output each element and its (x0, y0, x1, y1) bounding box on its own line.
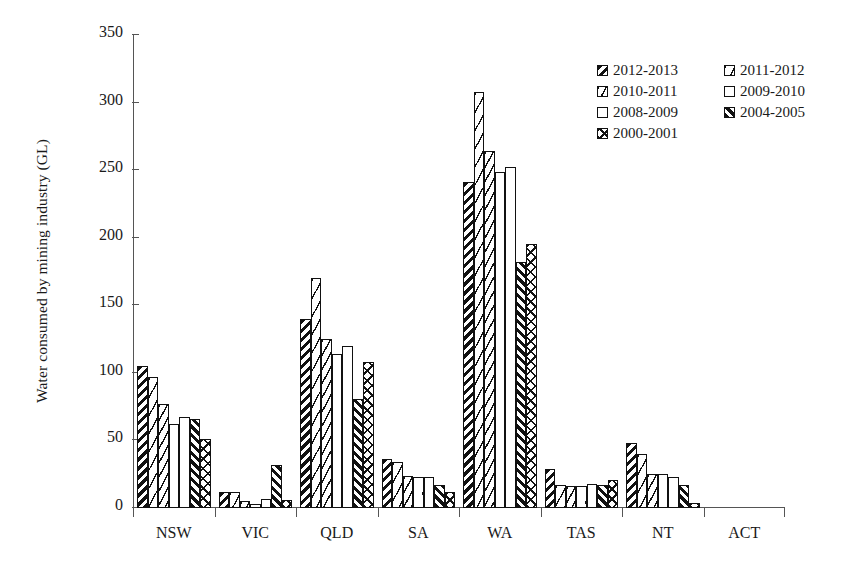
legend-item: 2008-2009 (597, 104, 710, 121)
bar (148, 377, 159, 508)
x-axis-tick-cell (704, 508, 786, 522)
x-axis-tick (622, 508, 623, 517)
bar (597, 485, 608, 508)
bar (158, 404, 169, 508)
legend-swatch-icon (724, 107, 735, 118)
bar (321, 339, 332, 508)
x-axis-tick (133, 508, 134, 517)
legend-item: 2010-2011 (597, 83, 710, 100)
legend-label: 2008-2009 (613, 104, 678, 121)
bar (200, 439, 211, 508)
x-axis-labels: NSWVICQLDSAWATASNTACT (133, 524, 785, 542)
x-axis-tick-cell (215, 508, 297, 522)
x-axis-label-act: ACT (704, 524, 786, 542)
legend-swatch-icon (724, 86, 735, 97)
x-axis-tick-cell (541, 508, 623, 522)
x-axis-tick (296, 508, 297, 517)
y-axis-tick-label: 300 (99, 91, 123, 109)
x-axis-label-qld: QLD (296, 524, 378, 542)
x-axis-tick (378, 508, 379, 517)
x-axis-label-wa: WA (459, 524, 541, 542)
bar-group-bars (300, 35, 374, 508)
bar (413, 477, 424, 508)
bar (392, 462, 403, 508)
bar (555, 485, 566, 508)
legend-swatch-icon (597, 86, 608, 97)
bar (474, 92, 485, 508)
legend-swatch-icon (724, 65, 735, 76)
legend-label: 2000-2001 (613, 125, 678, 142)
bar (190, 419, 201, 508)
legend-item: 2004-2005 (724, 104, 837, 121)
y-axis-tick-label: 100 (99, 361, 123, 379)
y-axis-tick-label: 200 (99, 226, 123, 244)
x-axis-tick-cell (296, 508, 378, 522)
x-axis-label-tas: TAS (541, 524, 623, 542)
x-axis-tick (459, 508, 460, 517)
x-axis-tick-cell (459, 508, 541, 522)
bar (353, 399, 364, 508)
bar-group (296, 35, 378, 508)
bar (495, 172, 506, 509)
bar (637, 454, 648, 508)
y-axis-tick-label: 150 (99, 293, 123, 311)
bar (271, 465, 282, 508)
y-axis-tick-label: 250 (99, 158, 123, 176)
bar (484, 151, 495, 508)
bar (526, 244, 537, 508)
bar (505, 167, 516, 508)
legend-label: 2009-2010 (740, 83, 805, 100)
bar (382, 459, 393, 508)
legend-swatch-icon (597, 65, 608, 76)
x-axis-tick-cell (622, 508, 704, 522)
bar (679, 485, 690, 508)
bar (587, 484, 598, 508)
x-axis-ticks (133, 508, 785, 522)
bar (363, 362, 374, 508)
bar (576, 486, 587, 508)
bar (608, 480, 619, 508)
legend-swatch-icon (597, 128, 608, 139)
bar (424, 477, 435, 508)
x-axis-tick (784, 508, 785, 517)
legend-label: 2011-2012 (740, 62, 804, 79)
bar (516, 262, 527, 508)
bar (179, 417, 190, 508)
legend-swatch-icon (597, 107, 608, 118)
x-axis-tick-cell (133, 508, 215, 522)
x-axis-label-nt: NT (622, 524, 704, 542)
bar-group-bars (137, 35, 211, 508)
bar-group (378, 35, 460, 508)
bar-group (133, 35, 215, 508)
x-axis-label-nsw: NSW (133, 524, 215, 542)
bar (300, 319, 311, 508)
bar (668, 477, 679, 508)
bar (219, 492, 230, 508)
bar (463, 182, 474, 508)
bar-group (215, 35, 297, 508)
bar-group (459, 35, 541, 508)
y-axis-tick-label: 50 (107, 428, 123, 446)
bar (229, 492, 240, 508)
legend-item: 2000-2001 (597, 125, 710, 142)
x-axis-tick (215, 508, 216, 517)
bar (626, 443, 637, 508)
y-axis-tick-label: 0 (115, 496, 123, 514)
x-axis-tick (541, 508, 542, 517)
bar (261, 499, 272, 508)
bar (240, 501, 251, 508)
x-axis-label-vic: VIC (215, 524, 297, 542)
bar (403, 476, 414, 508)
legend-label: 2004-2005 (740, 104, 805, 121)
legend-item: 2012-2013 (597, 62, 710, 79)
bar (445, 492, 456, 508)
bar-group-bars (219, 35, 293, 508)
bar (282, 500, 293, 508)
bar (332, 354, 343, 508)
bar-chart-figure: Water consumed by mining industry (GL) 0… (0, 0, 845, 571)
legend-item: 2009-2010 (724, 83, 837, 100)
legend-label: 2012-2013 (613, 62, 678, 79)
bar (545, 469, 556, 508)
x-axis-tick-cell (378, 508, 460, 522)
y-axis-title: Water consumed by mining industry (GL) (33, 61, 51, 481)
